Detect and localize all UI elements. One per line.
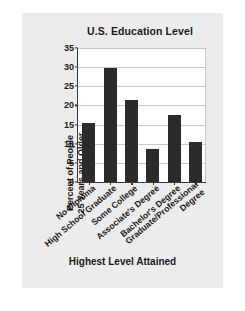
bar[interactable] xyxy=(104,68,117,182)
x-axis-title: Highest Level Attained xyxy=(22,256,223,267)
y-tick-mark xyxy=(75,47,78,48)
gridline xyxy=(78,48,206,49)
y-tick-mark xyxy=(75,86,78,87)
chart-title: U.S. Education Level xyxy=(60,25,220,37)
gridline xyxy=(78,144,206,145)
gridline xyxy=(78,105,206,106)
plot-area: 05101520253035 Percent of People 25 Year… xyxy=(77,48,206,183)
y-tick-mark xyxy=(75,105,78,106)
bar[interactable] xyxy=(125,100,138,182)
y-tick-label: 30 xyxy=(64,62,74,72)
gridline xyxy=(78,125,206,126)
bar[interactable] xyxy=(168,115,181,182)
y-tick-label: 20 xyxy=(64,100,74,110)
bar[interactable] xyxy=(146,149,159,182)
bar[interactable] xyxy=(82,123,95,182)
y-tick-label: 25 xyxy=(64,81,74,91)
y-tick-mark xyxy=(75,67,78,68)
gridline xyxy=(78,163,206,164)
bar[interactable] xyxy=(189,142,202,182)
y-tick-label: 35 xyxy=(64,43,74,53)
gridline xyxy=(78,86,206,87)
gridline xyxy=(78,67,206,68)
chart-figure-panel: U.S. Education Level 05101520253035 Perc… xyxy=(22,13,223,288)
